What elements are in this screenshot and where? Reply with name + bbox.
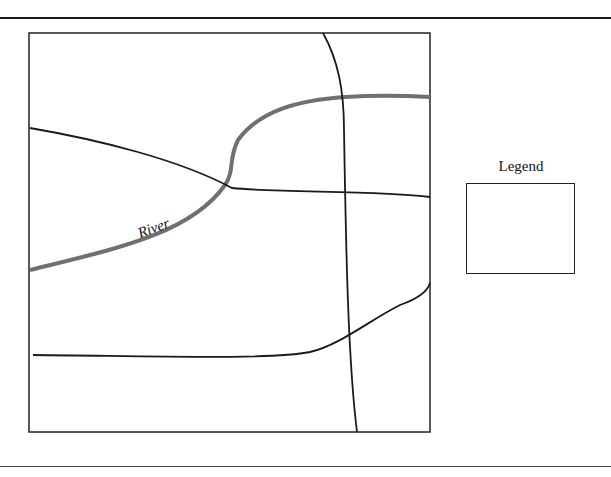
map-frame	[29, 33, 430, 432]
road-north-south	[323, 33, 357, 432]
legend-box	[466, 183, 575, 274]
legend-title: Legend	[466, 158, 576, 175]
bottom-divider	[0, 466, 611, 467]
road-east-west-lower	[33, 283, 430, 357]
river-path	[30, 96, 430, 270]
